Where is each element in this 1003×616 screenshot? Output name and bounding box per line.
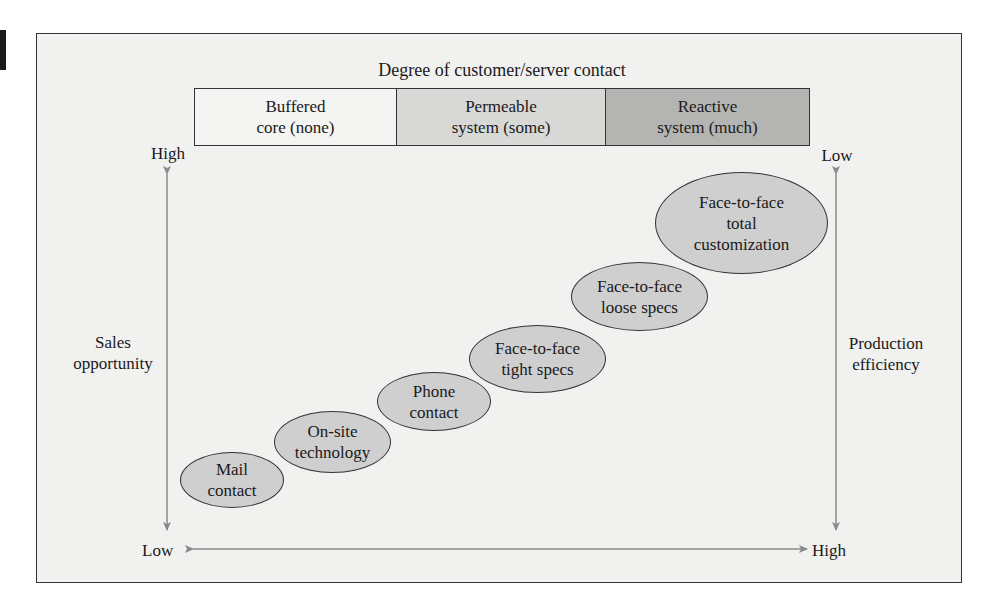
sales-opportunity-label: Sales opportunity <box>58 332 168 374</box>
ellipse-face-to-face-total-customization: Face-to-face total customization <box>655 172 828 274</box>
bottom-axis-low-label: Low <box>142 540 192 561</box>
axis-arrows <box>0 0 1003 616</box>
ellipse-mail-contact: Mail contact <box>180 452 284 508</box>
ellipse-face-to-face-tight-specs: Face-to-face tight specs <box>469 325 606 393</box>
left-axis-high-label: High <box>140 143 196 164</box>
right-axis-low-label: Low <box>814 145 860 166</box>
bottom-axis-high-label: High <box>812 540 862 561</box>
production-efficiency-label: Production efficiency <box>836 333 936 375</box>
ellipse-on-site-technology: On-site technology <box>274 411 391 473</box>
ellipse-face-to-face-loose-specs: Face-to-face loose specs <box>571 262 708 331</box>
ellipse-phone-contact: Phone contact <box>377 372 491 431</box>
